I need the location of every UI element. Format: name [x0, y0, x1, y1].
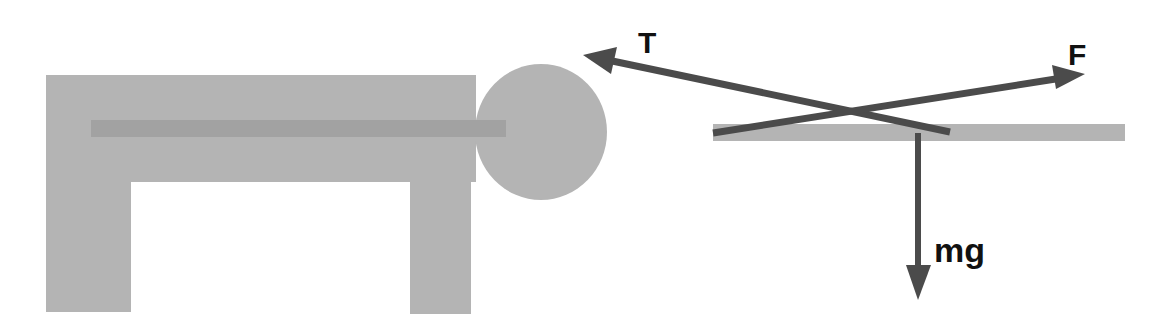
table-right-leg	[410, 75, 471, 314]
tension-label: T	[638, 26, 656, 59]
table-frame	[46, 75, 476, 314]
weight-label: mg	[934, 231, 985, 269]
diagram-canvas: T F mg	[0, 0, 1167, 320]
applied-force-label: F	[1068, 38, 1086, 71]
tension-arrow	[583, 47, 950, 132]
weight-arrow	[906, 133, 931, 300]
table-left-leg	[46, 75, 131, 312]
rod	[91, 120, 506, 137]
tension-arrowhead-icon	[583, 47, 617, 74]
weight-arrowhead-icon	[906, 265, 931, 300]
